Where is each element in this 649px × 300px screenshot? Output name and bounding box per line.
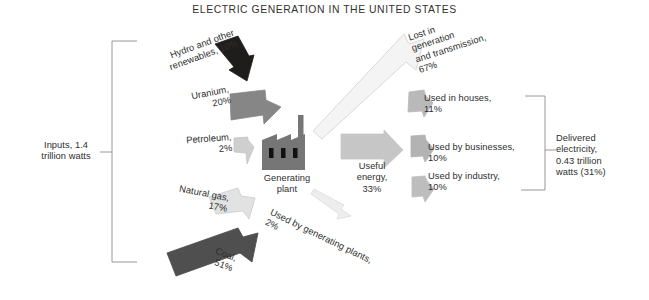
label-generating-plant: Generating plant	[239, 173, 335, 196]
label-useful-energy: Useful energy, 33%	[336, 161, 408, 195]
inputs-bracket-label: Inputs, 1.4 trillion watts	[24, 140, 108, 163]
label-used-in-houses: Used in houses, 11%	[424, 93, 536, 116]
page-title: ELECTRIC GENERATION IN THE UNITED STATES	[0, 4, 649, 15]
label-natural-gas: Natural gas, 17%	[116, 172, 230, 216]
label-used-by-businesses: Used by businesses, 10%	[428, 142, 548, 165]
delivered-bracket-label: Delivered electricity, 0.43 trillion wat…	[556, 133, 648, 179]
infographic-canvas: ELECTRIC GENERATION IN THE UNITED STATES	[0, 0, 649, 300]
label-used-by-generating-plants: Used by generating plants, 2%	[263, 207, 395, 287]
arrow-petroleum	[234, 137, 254, 164]
label-coal: Coal, 51%	[125, 214, 238, 275]
arrow-lost-in-generation-and-transmission	[313, 34, 424, 139]
label-uranium: Uranium, 20%	[126, 84, 232, 126]
arrow-uranium	[230, 90, 281, 124]
label-hydro-and-other-renewables: Hydro and other renewables, 10%	[121, 28, 240, 90]
label-used-by-industry: Used by industry, 10%	[428, 171, 540, 194]
label-petroleum: Petroleum, 2%	[125, 132, 232, 162]
generating-plant-icon	[262, 115, 305, 170]
